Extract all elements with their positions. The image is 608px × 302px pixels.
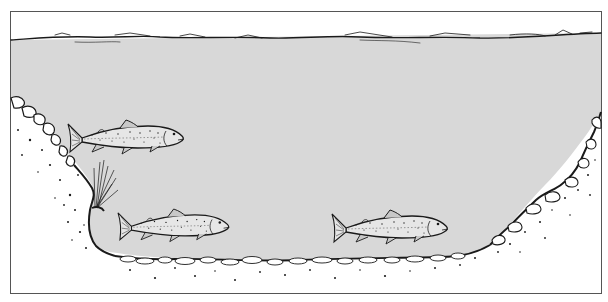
river-illustration [0,0,608,302]
river-cross-section-svg [0,0,608,302]
